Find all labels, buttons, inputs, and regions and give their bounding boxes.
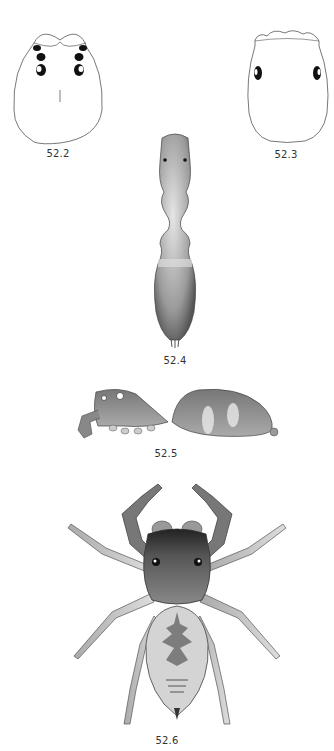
figure-52-5 bbox=[68, 382, 290, 444]
figure-52-2 bbox=[10, 30, 110, 145]
habitus-dorsal-52-6 bbox=[62, 484, 292, 724]
figure-label-52-6: 52.6 bbox=[137, 735, 197, 746]
body-lateral-52-5 bbox=[68, 382, 290, 444]
figure-label-52-5: 52.5 bbox=[136, 448, 196, 459]
carapace-outline-52-3 bbox=[245, 28, 330, 143]
carapace-outline-52-2 bbox=[10, 30, 110, 145]
figure-52-6 bbox=[62, 484, 292, 724]
figure-label-52-3: 52.3 bbox=[256, 149, 316, 160]
figure-52-4 bbox=[150, 132, 200, 352]
body-dorsal-52-4 bbox=[150, 132, 200, 352]
figure-52-3 bbox=[245, 28, 330, 143]
figure-label-52-4: 52.4 bbox=[145, 355, 205, 366]
figure-label-52-2: 52.2 bbox=[28, 148, 88, 159]
